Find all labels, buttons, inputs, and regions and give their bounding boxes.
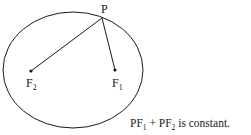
point-p-label: P bbox=[101, 3, 108, 15]
focus-f2-label: F2 bbox=[26, 77, 37, 89]
segment-p-f1 bbox=[102, 18, 115, 70]
segment-p-f2 bbox=[31, 18, 102, 71]
focus-f2-dot bbox=[29, 69, 32, 72]
ellipse bbox=[3, 12, 143, 128]
focus-f1-label: F1 bbox=[112, 77, 123, 89]
ellipse-diagram bbox=[0, 0, 251, 135]
caption: PF1 + PF2 is constant. bbox=[130, 117, 230, 129]
focus-f1-dot bbox=[113, 68, 116, 71]
